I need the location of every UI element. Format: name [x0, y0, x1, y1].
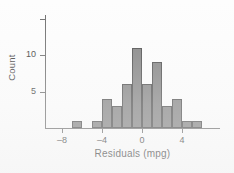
y-axis-spine [45, 15, 46, 129]
x-tick-mark [182, 128, 183, 133]
y-tick-mark [40, 19, 46, 20]
y-tick-mark [40, 92, 46, 93]
y-tick-mark [40, 55, 46, 56]
histogram-bar [142, 84, 152, 128]
histogram-bar [192, 121, 202, 128]
histogram-figure: 510 –8–404 Count Residuals (mpg) [0, 0, 234, 173]
histogram-bar [132, 48, 142, 128]
x-axis-spine [45, 128, 220, 129]
x-tick-mark [62, 128, 63, 133]
x-tick-label: –4 [90, 135, 114, 145]
y-tick-label: 5 [18, 87, 36, 96]
x-axis-title: Residuals (mpg) [45, 148, 220, 159]
y-axis-title: Count [6, 38, 17, 98]
x-tick-mark [142, 128, 143, 133]
x-tick-label: –8 [50, 135, 74, 145]
histogram-bar [162, 106, 172, 128]
x-tick-mark [102, 128, 103, 133]
histogram-bar [172, 99, 182, 128]
x-tick-label: 0 [130, 135, 154, 145]
y-tick-label: 10 [18, 50, 36, 59]
histogram-bar [72, 121, 82, 128]
histogram-bar [112, 106, 122, 128]
histogram-bar [102, 99, 112, 128]
histogram-bar [152, 62, 162, 128]
histogram-bar [122, 84, 132, 128]
x-tick-label: 4 [170, 135, 194, 145]
histogram-bar [92, 121, 102, 128]
plot-area: 510 –8–404 Count Residuals (mpg) [0, 0, 234, 173]
histogram-bar [182, 121, 192, 128]
